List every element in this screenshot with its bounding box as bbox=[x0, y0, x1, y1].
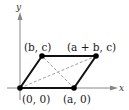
vertex-labels: (0, 0) (a, 0) (b, c) (a + b, c) bbox=[22, 41, 116, 105]
y-axis-arrow-icon bbox=[18, 12, 23, 20]
x-axis-label: x bbox=[119, 83, 124, 93]
vertex-abc bbox=[93, 53, 99, 59]
parallelogram-diagram: x y (0, 0) (a, 0) (b, c) (a + b, c) bbox=[0, 0, 129, 110]
label-abc: (a + b, c) bbox=[67, 41, 116, 53]
x-axis-arrow-icon bbox=[110, 86, 118, 91]
vertex-origin bbox=[17, 85, 23, 91]
vertex-a0 bbox=[71, 85, 77, 91]
y-axis-label: y bbox=[15, 2, 22, 12]
vertex-bc bbox=[39, 53, 45, 59]
label-a0: (a, 0) bbox=[63, 93, 91, 105]
label-origin: (0, 0) bbox=[22, 93, 50, 105]
label-bc: (b, c) bbox=[24, 41, 51, 53]
diagonal-a0-to-bc bbox=[42, 56, 74, 88]
